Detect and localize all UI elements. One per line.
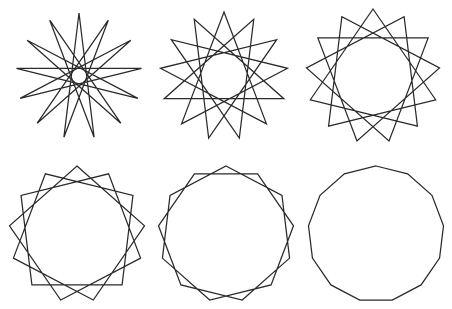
star-panel-5: {13/2}: [159, 166, 294, 300]
star-13-3: {13/3}: [10, 166, 145, 300]
star-13-6: {13/6}: [16, 13, 141, 137]
star-13-5: {13/5}: [160, 12, 287, 138]
polygon-13-1: {13/1}: [309, 166, 444, 300]
star-panel-4: {13/3}: [10, 166, 145, 300]
star-panel-6: {13/1}: [309, 166, 444, 300]
star-panel-3: {13/4}: [306, 9, 439, 141]
star-panel-1: {13/6}: [16, 13, 141, 137]
star-13-2: {13/2}: [159, 166, 294, 300]
star-13-4: {13/4}: [306, 9, 439, 141]
star-polygon-figure-board: {13/6}{13/5}{13/4}{13/3}{13/2}{13/1}: [0, 0, 452, 309]
star-panel-2: {13/5}: [160, 12, 287, 138]
star-polygon-canvas: {13/6}{13/5}{13/4}{13/3}{13/2}{13/1}: [0, 0, 452, 309]
